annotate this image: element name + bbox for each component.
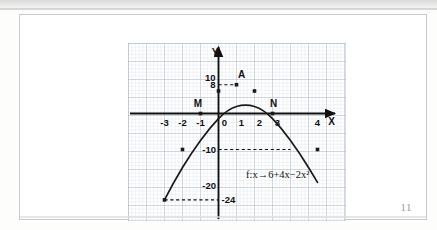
point-label-A: A <box>238 69 245 80</box>
graph-figure: -3 -2 -1 0 1 2 3 4 10 8 -10 -20 -24 <box>128 43 346 221</box>
figure-card: -3 -2 -1 0 1 2 3 4 10 8 -10 -20 -24 <box>19 14 427 220</box>
point-label-N: N <box>270 98 277 109</box>
scanned-page-background: -3 -2 -1 0 1 2 3 4 10 8 -10 -20 -24 <box>0 0 437 230</box>
x-tick-label: 3 <box>275 117 280 128</box>
x-tick-label: 0 <box>222 117 227 128</box>
x-axis-label: X <box>328 116 335 127</box>
scan-top-band-edge <box>0 8 437 10</box>
page-number: 11 <box>400 201 412 213</box>
x-tick-label: -1 <box>196 117 205 128</box>
x-tick-label: 2 <box>257 117 262 128</box>
y-tick-label: -20 <box>202 180 216 191</box>
marker-x-minus-3 <box>163 198 167 202</box>
marker-x-minus-1-M <box>199 112 203 116</box>
x-tick-label: 1 <box>239 117 245 128</box>
marker-x-1-A <box>235 83 239 87</box>
marker-x-0 <box>217 89 221 93</box>
y-tick-label: -24 <box>222 194 236 205</box>
y-tick-label: -10 <box>202 144 216 155</box>
marker-x-3-N <box>271 112 275 116</box>
x-tick-label: -2 <box>178 117 186 128</box>
card-shadow <box>20 216 426 218</box>
point-label-M: M <box>194 98 202 109</box>
marker-x-2 <box>253 89 257 93</box>
marker-x-4 <box>316 148 320 152</box>
graph-svg: -3 -2 -1 0 1 2 3 4 10 8 -10 -20 -24 <box>128 43 346 221</box>
y-axis-label: Y <box>212 47 219 58</box>
marker-x-minus-2 <box>181 148 185 152</box>
x-tick-label: -3 <box>160 117 168 128</box>
function-caption: f:x→6+4x−2x² <box>246 169 309 180</box>
x-tick-label: 4 <box>315 117 321 128</box>
y-tick-label: 8 <box>210 79 215 90</box>
